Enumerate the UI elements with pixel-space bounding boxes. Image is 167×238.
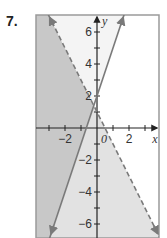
y-tick-label: −2: [78, 153, 92, 167]
y-axis-label: y: [101, 14, 108, 28]
y-tick-label: −6: [78, 217, 92, 231]
x-tick-label: 0: [101, 132, 107, 146]
x-tick-label: 2: [126, 132, 133, 146]
x-tick-label: −2: [58, 132, 72, 146]
y-tick-label: −4: [78, 185, 92, 199]
inequality-graph: 02−2246−2−4−6xy: [0, 0, 167, 238]
y-tick-label: 4: [85, 57, 92, 71]
x-axis-label: x: [151, 132, 158, 146]
y-tick-label: 2: [85, 89, 92, 103]
y-tick-label: 6: [85, 25, 92, 39]
